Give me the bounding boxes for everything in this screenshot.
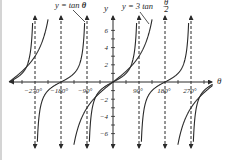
annotation-tan: y = tan θ	[54, 0, 87, 22]
ytick-m6: −6	[100, 130, 109, 138]
annotation-3tan-half: y = 3 tan θ 2	[121, 0, 169, 24]
y-axis-label: y	[103, 3, 108, 13]
legend-tan-var: θ	[82, 0, 87, 10]
xtick-270: 270°	[183, 87, 197, 95]
ytick-m4: −4	[100, 113, 109, 121]
xtick-90: 90°	[133, 87, 143, 95]
tangent-graph: −270° −180° −90° 90° 180° 270° 6 4 2 −2 …	[0, 0, 225, 160]
x-tick-labels: −270° −180° −90° 90° 180° 270°	[24, 87, 197, 95]
x-axis-label: θ	[217, 76, 222, 86]
annotation-3tan-leader	[140, 12, 149, 24]
legend-3tan-den: 2	[164, 4, 169, 14]
legend-3tan-prefix: y = 3 tan	[121, 1, 153, 11]
svg-text:y = 3 tan: y = 3 tan	[121, 1, 153, 11]
xtick-m270: −270°	[24, 87, 42, 95]
curve-tan	[9, 23, 33, 82]
legend-tan-prefix: y = tan	[54, 0, 82, 10]
ytick-6: 6	[105, 27, 109, 35]
xtick-m90: −90°	[78, 87, 93, 95]
ytick-4: 4	[105, 44, 109, 52]
curve-3tan-half	[9, 19, 48, 82]
svg-text:y = tan θ: y = tan θ	[54, 0, 87, 10]
annotation-tan-leader	[73, 10, 85, 22]
ytick-m2: −2	[100, 96, 109, 104]
xtick-m180: −180°	[50, 87, 68, 95]
ytick-2: 2	[105, 61, 109, 69]
xtick-180: 180°	[157, 87, 171, 95]
